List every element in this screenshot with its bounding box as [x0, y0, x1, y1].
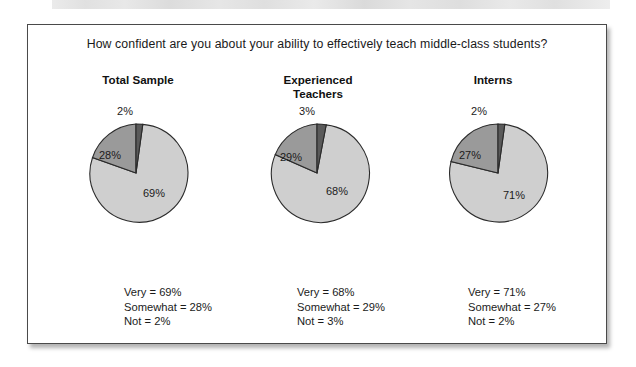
pie-panel-interns: Interns 2% 71% 27% Very = 71% Somewhat =… — [398, 73, 588, 231]
slice-label-very: 68% — [326, 185, 348, 197]
panel-title: Interns — [398, 73, 588, 103]
outside-slice-label: 2% — [384, 105, 574, 117]
figure-card: How confident are you about your ability… — [27, 24, 607, 344]
slice-label-somewhat: 29% — [280, 151, 302, 163]
legend-item: Very = 71% — [468, 285, 556, 300]
pie-legend: Very = 69% Somewhat = 28% Not = 2% — [124, 285, 212, 329]
pie-panel-experienced-teachers: Experienced Teachers 3% 68% 29% Very = 6… — [223, 73, 413, 231]
pie-svg: 71% 27% — [444, 119, 552, 227]
legend-item: Somewhat = 29% — [297, 300, 385, 315]
pie-svg: 69% 28% — [82, 119, 190, 227]
panel-title-line: Teachers — [223, 87, 413, 101]
pie-legend: Very = 71% Somewhat = 27% Not = 2% — [468, 285, 556, 329]
scanned-page-strip — [52, 0, 610, 9]
slice-label-somewhat: 27% — [459, 149, 481, 161]
legend-item: Not = 3% — [297, 314, 385, 329]
legend-item: Very = 69% — [124, 285, 212, 300]
legend-item: Very = 68% — [297, 285, 385, 300]
pie-chart: 71% 27% — [398, 119, 588, 231]
slice-label-very: 71% — [503, 189, 525, 201]
pie-panel-total-sample: Total Sample 2% 69% 28% Very = 69% Somew… — [43, 73, 233, 231]
panel-title: Experienced Teachers — [223, 73, 413, 103]
panel-title: Total Sample — [43, 73, 233, 103]
legend-item: Not = 2% — [468, 314, 556, 329]
outside-slice-label: 3% — [212, 105, 402, 117]
outside-slice-label: 2% — [30, 105, 220, 117]
figure-question-title: How confident are you about your ability… — [28, 37, 606, 51]
pie-chart: 69% 28% — [43, 119, 233, 231]
panel-title-line: Total Sample — [43, 73, 233, 87]
pie-chart: 68% 29% — [223, 119, 413, 231]
legend-item: Not = 2% — [124, 314, 212, 329]
legend-item: Somewhat = 28% — [124, 300, 212, 315]
slice-label-very: 69% — [143, 187, 165, 199]
panel-title-line: Interns — [398, 73, 588, 87]
panel-title-line: Experienced — [223, 73, 413, 87]
slice-label-somewhat: 28% — [99, 149, 121, 161]
legend-item: Somewhat = 27% — [468, 300, 556, 315]
pie-svg: 68% 29% — [263, 119, 371, 227]
pie-legend: Very = 68% Somewhat = 29% Not = 3% — [297, 285, 385, 329]
